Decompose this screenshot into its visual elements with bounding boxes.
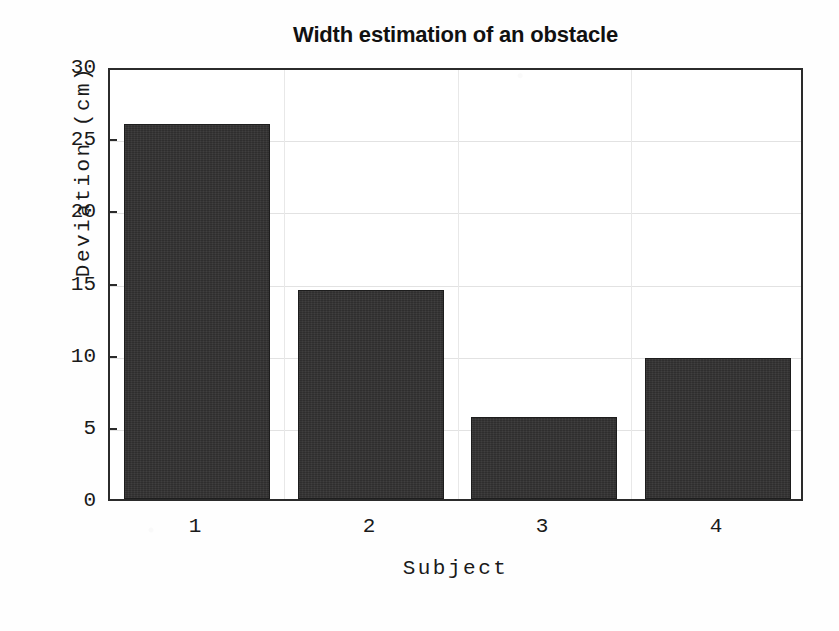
chart-title: Width estimation of an obstacle: [108, 22, 803, 48]
bar[interactable]: [124, 124, 270, 499]
y-tick-mark: [108, 356, 117, 358]
bar[interactable]: [471, 417, 617, 499]
x-tick-label: 2: [339, 516, 399, 537]
y-tick-mark: [108, 284, 117, 286]
x-tick-label: 3: [512, 516, 572, 537]
figure-canvas: Width estimation of an obstacle 05101520…: [0, 0, 839, 631]
x-tick-label: 1: [165, 516, 225, 537]
y-tick-mark: [108, 428, 117, 430]
x-tick-label: 4: [686, 516, 746, 537]
bar[interactable]: [298, 290, 444, 499]
y-tick-label: 0: [26, 490, 96, 511]
y-tick-mark: [108, 139, 117, 141]
bar-series: [110, 70, 801, 499]
plot-area: [108, 68, 803, 501]
y-tick-label: 5: [26, 418, 96, 439]
y-tick-mark: [108, 211, 117, 213]
x-axis-label: Subject: [108, 557, 803, 580]
y-tick-label: 10: [26, 346, 96, 367]
y-axis-label: Deviation (cm): [72, 27, 95, 317]
bar[interactable]: [645, 358, 791, 499]
